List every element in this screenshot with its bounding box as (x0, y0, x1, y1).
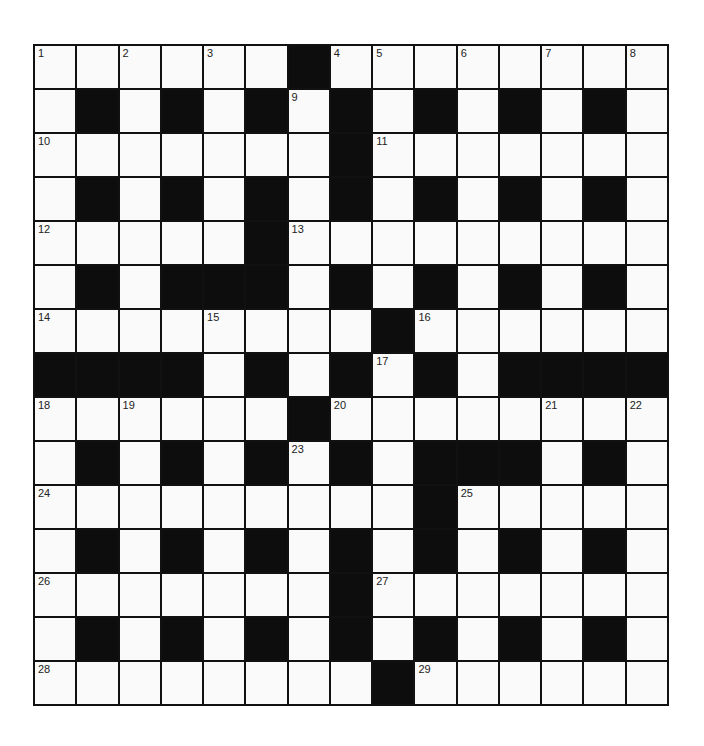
answer-cell[interactable] (162, 486, 202, 528)
answer-cell[interactable]: 19 (120, 398, 160, 440)
answer-cell[interactable] (542, 266, 582, 308)
answer-cell[interactable] (373, 398, 413, 440)
answer-cell[interactable] (35, 90, 75, 132)
answer-cell[interactable] (500, 486, 540, 528)
answer-cell[interactable] (162, 662, 202, 704)
answer-cell[interactable] (35, 178, 75, 220)
answer-cell[interactable] (77, 222, 117, 264)
answer-cell[interactable] (584, 134, 624, 176)
answer-cell[interactable] (627, 222, 667, 264)
answer-cell[interactable] (458, 222, 498, 264)
answer-cell[interactable]: 12 (35, 222, 75, 264)
answer-cell[interactable] (415, 222, 455, 264)
answer-cell[interactable] (458, 398, 498, 440)
answer-cell[interactable]: 1 (35, 46, 75, 88)
answer-cell[interactable] (500, 46, 540, 88)
answer-cell[interactable] (289, 310, 329, 352)
answer-cell[interactable] (204, 222, 244, 264)
answer-cell[interactable] (204, 442, 244, 484)
answer-cell[interactable] (120, 222, 160, 264)
answer-cell[interactable]: 5 (373, 46, 413, 88)
answer-cell[interactable]: 15 (204, 310, 244, 352)
answer-cell[interactable] (204, 90, 244, 132)
answer-cell[interactable]: 26 (35, 574, 75, 616)
answer-cell[interactable] (120, 530, 160, 572)
answer-cell[interactable] (500, 134, 540, 176)
answer-cell[interactable] (542, 134, 582, 176)
answer-cell[interactable] (289, 574, 329, 616)
answer-cell[interactable] (458, 310, 498, 352)
answer-cell[interactable] (627, 442, 667, 484)
answer-cell[interactable] (204, 618, 244, 660)
answer-cell[interactable] (162, 134, 202, 176)
answer-cell[interactable] (627, 178, 667, 220)
answer-cell[interactable] (246, 662, 286, 704)
answer-cell[interactable] (246, 134, 286, 176)
answer-cell[interactable] (77, 662, 117, 704)
answer-cell[interactable] (584, 222, 624, 264)
answer-cell[interactable] (458, 574, 498, 616)
answer-cell[interactable] (542, 662, 582, 704)
answer-cell[interactable] (162, 574, 202, 616)
answer-cell[interactable] (373, 222, 413, 264)
answer-cell[interactable] (120, 442, 160, 484)
answer-cell[interactable] (542, 178, 582, 220)
answer-cell[interactable] (627, 662, 667, 704)
answer-cell[interactable]: 29 (415, 662, 455, 704)
answer-cell[interactable] (289, 618, 329, 660)
answer-cell[interactable] (584, 574, 624, 616)
answer-cell[interactable] (289, 486, 329, 528)
answer-cell[interactable] (331, 222, 371, 264)
answer-cell[interactable] (500, 574, 540, 616)
answer-cell[interactable] (204, 662, 244, 704)
answer-cell[interactable] (542, 574, 582, 616)
answer-cell[interactable]: 23 (289, 442, 329, 484)
answer-cell[interactable] (415, 46, 455, 88)
answer-cell[interactable] (458, 354, 498, 396)
answer-cell[interactable] (246, 486, 286, 528)
answer-cell[interactable]: 9 (289, 90, 329, 132)
answer-cell[interactable] (204, 134, 244, 176)
answer-cell[interactable] (289, 662, 329, 704)
answer-cell[interactable] (289, 266, 329, 308)
answer-cell[interactable] (35, 530, 75, 572)
answer-cell[interactable] (584, 398, 624, 440)
answer-cell[interactable]: 22 (627, 398, 667, 440)
answer-cell[interactable] (162, 46, 202, 88)
answer-cell[interactable] (584, 486, 624, 528)
answer-cell[interactable] (331, 486, 371, 528)
answer-cell[interactable] (289, 178, 329, 220)
answer-cell[interactable]: 21 (542, 398, 582, 440)
answer-cell[interactable] (331, 662, 371, 704)
answer-cell[interactable] (204, 398, 244, 440)
answer-cell[interactable] (542, 618, 582, 660)
answer-cell[interactable] (35, 442, 75, 484)
answer-cell[interactable] (373, 618, 413, 660)
answer-cell[interactable] (542, 310, 582, 352)
answer-cell[interactable] (542, 486, 582, 528)
answer-cell[interactable] (458, 266, 498, 308)
answer-cell[interactable] (246, 46, 286, 88)
answer-cell[interactable] (373, 530, 413, 572)
answer-cell[interactable] (77, 486, 117, 528)
answer-cell[interactable] (584, 46, 624, 88)
answer-cell[interactable] (584, 662, 624, 704)
answer-cell[interactable]: 8 (627, 46, 667, 88)
answer-cell[interactable] (458, 662, 498, 704)
answer-cell[interactable] (458, 530, 498, 572)
answer-cell[interactable] (458, 178, 498, 220)
answer-cell[interactable] (35, 618, 75, 660)
answer-cell[interactable] (415, 398, 455, 440)
answer-cell[interactable] (120, 178, 160, 220)
answer-cell[interactable] (204, 486, 244, 528)
answer-cell[interactable] (415, 134, 455, 176)
answer-cell[interactable] (120, 90, 160, 132)
answer-cell[interactable] (500, 310, 540, 352)
answer-cell[interactable]: 16 (415, 310, 455, 352)
answer-cell[interactable]: 27 (373, 574, 413, 616)
answer-cell[interactable] (246, 310, 286, 352)
answer-cell[interactable] (162, 310, 202, 352)
answer-cell[interactable] (289, 134, 329, 176)
answer-cell[interactable]: 17 (373, 354, 413, 396)
answer-cell[interactable]: 4 (331, 46, 371, 88)
